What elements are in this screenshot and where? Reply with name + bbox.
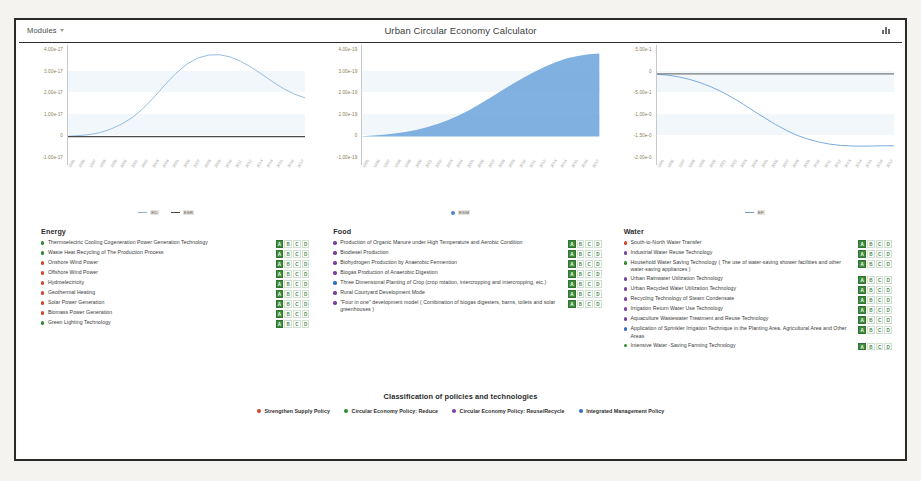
scenario-badge-c[interactable]: C <box>585 300 593 308</box>
scenario-badge-a[interactable]: A <box>276 290 284 298</box>
list-item[interactable]: Irrigation Return Water Use TechnologyAB… <box>624 305 892 314</box>
scenario-badge-c[interactable]: C <box>876 306 884 314</box>
scenario-badge-b[interactable]: B <box>577 240 585 248</box>
scenario-badge-b[interactable]: B <box>577 290 585 298</box>
scenario-badge-c[interactable]: C <box>876 276 884 284</box>
footer-legend-item[interactable]: Strengthen Supply Policy <box>257 408 330 414</box>
scenario-badge-a[interactable]: A <box>858 286 866 294</box>
scenario-badge-d[interactable]: D <box>884 250 892 258</box>
legend-item[interactable]: ED <box>138 210 158 215</box>
scenario-badge-d[interactable]: D <box>594 280 602 288</box>
scenario-badge-d[interactable]: D <box>884 296 892 304</box>
list-item[interactable]: Biodiesel ProductionABCD <box>333 249 601 258</box>
scenario-badge-b[interactable]: B <box>577 260 585 268</box>
scenario-badge-c[interactable]: C <box>293 310 301 318</box>
list-item[interactable]: Application of Sprinkler Irrigation Tech… <box>624 325 892 340</box>
scenario-badge-d[interactable]: D <box>884 286 892 294</box>
legend-item[interactable]: EF <box>745 210 765 215</box>
scenario-badge-b[interactable]: B <box>867 296 875 304</box>
scenario-badge-d[interactable]: D <box>302 290 310 298</box>
scenario-badge-c[interactable]: C <box>293 250 301 258</box>
scenario-badge-c[interactable]: C <box>293 320 301 328</box>
scenario-badge-a[interactable]: A <box>858 276 866 284</box>
scenario-badge-b[interactable]: B <box>284 280 292 288</box>
scenario-badge-d[interactable]: D <box>594 240 602 248</box>
legend-item[interactable]: ESR <box>171 210 194 215</box>
scenario-badge-c[interactable]: C <box>876 296 884 304</box>
scenario-badge-b[interactable]: B <box>867 286 875 294</box>
scenario-badge-b[interactable]: B <box>284 290 292 298</box>
scenario-badge-c[interactable]: C <box>876 286 884 294</box>
scenario-badge-d[interactable]: D <box>884 326 892 334</box>
scenario-badge-c[interactable]: C <box>876 316 884 324</box>
list-item[interactable]: HydroelectricityABCD <box>41 279 309 288</box>
scenario-badge-a[interactable]: A <box>568 270 576 278</box>
scenario-badge-a[interactable]: A <box>276 250 284 258</box>
scenario-badge-a[interactable]: A <box>858 343 866 351</box>
scenario-badge-c[interactable]: C <box>876 326 884 334</box>
list-item[interactable]: Waste Heat Recycling of The Production P… <box>41 249 309 258</box>
scenario-badge-b[interactable]: B <box>284 250 292 258</box>
scenario-badge-b[interactable]: B <box>577 250 585 258</box>
scenario-badge-b[interactable]: B <box>867 306 875 314</box>
scenario-badge-d[interactable]: D <box>302 250 310 258</box>
list-item[interactable]: Biohydrogen Production by Anaerobic Ferm… <box>333 259 601 268</box>
scenario-badge-a[interactable]: A <box>276 270 284 278</box>
scenario-badge-a[interactable]: A <box>858 240 866 248</box>
scenario-badge-d[interactable]: D <box>594 260 602 268</box>
scenario-badge-c[interactable]: C <box>876 240 884 248</box>
scenario-badge-a[interactable]: A <box>858 260 866 268</box>
list-item[interactable]: Aquaculture Wastewater Treatment and Reu… <box>624 315 892 324</box>
scenario-badge-b[interactable]: B <box>284 270 292 278</box>
list-item[interactable]: Onshore Wind PowerABCD <box>41 259 309 268</box>
scenario-badge-a[interactable]: A <box>276 320 284 328</box>
scenario-badge-b[interactable]: B <box>284 300 292 308</box>
scenario-badge-b[interactable]: B <box>867 343 875 351</box>
scenario-badge-a[interactable]: A <box>568 290 576 298</box>
scenario-badge-d[interactable]: D <box>884 240 892 248</box>
list-item[interactable]: Production of Organic Manure under High … <box>333 239 601 248</box>
scenario-badge-a[interactable]: A <box>276 260 284 268</box>
scenario-badge-c[interactable]: C <box>293 300 301 308</box>
scenario-badge-a[interactable]: A <box>858 250 866 258</box>
scenario-badge-b[interactable]: B <box>284 260 292 268</box>
scenario-badge-a[interactable]: A <box>276 300 284 308</box>
list-item[interactable]: "Four in one" development model ( Combin… <box>333 299 601 314</box>
scenario-badge-d[interactable]: D <box>302 240 310 248</box>
scenario-badge-d[interactable]: D <box>302 320 310 328</box>
scenario-badge-b[interactable]: B <box>577 300 585 308</box>
scenario-badge-a[interactable]: A <box>568 260 576 268</box>
scenario-badge-a[interactable]: A <box>568 300 576 308</box>
scenario-badge-c[interactable]: C <box>293 240 301 248</box>
scenario-badge-a[interactable]: A <box>276 310 284 318</box>
scenario-badge-b[interactable]: B <box>867 276 875 284</box>
scenario-badge-c[interactable]: C <box>876 260 884 268</box>
scenario-badge-d[interactable]: D <box>594 290 602 298</box>
scenario-badge-a[interactable]: A <box>858 326 866 334</box>
footer-legend-item[interactable]: Integrated Management Policy <box>579 408 665 414</box>
scenario-badge-d[interactable]: D <box>884 260 892 268</box>
scenario-badge-a[interactable]: A <box>568 240 576 248</box>
list-item[interactable]: Intensive Water -Saving Farming Technolo… <box>624 342 892 351</box>
scenario-badge-c[interactable]: C <box>293 260 301 268</box>
list-item[interactable]: Biomass Power GenerationABCD <box>41 309 309 318</box>
scenario-badge-a[interactable]: A <box>276 280 284 288</box>
list-item[interactable]: Recycling Technology of Steam Condensate… <box>624 295 892 304</box>
scenario-badge-c[interactable]: C <box>585 270 593 278</box>
scenario-badge-d[interactable]: D <box>594 270 602 278</box>
scenario-badge-b[interactable]: B <box>867 260 875 268</box>
list-item[interactable]: Solar Power GenerationABCD <box>41 299 309 308</box>
scenario-badge-b[interactable]: B <box>867 316 875 324</box>
scenario-badge-b[interactable]: B <box>284 310 292 318</box>
list-item[interactable]: Urban Rainwater Utilization TechnologyAB… <box>624 275 892 284</box>
list-item[interactable]: Biogas Production of Anaerobic Digestion… <box>333 269 601 278</box>
scenario-badge-d[interactable]: D <box>884 343 892 351</box>
scenario-badge-d[interactable]: D <box>302 280 310 288</box>
scenario-badge-c[interactable]: C <box>585 240 593 248</box>
scenario-badge-c[interactable]: C <box>293 280 301 288</box>
chart-icon[interactable] <box>880 26 892 35</box>
list-item[interactable]: Green Lighting TechnologyABCD <box>41 319 309 328</box>
scenario-badge-b[interactable]: B <box>577 280 585 288</box>
scenario-badge-a[interactable]: A <box>858 306 866 314</box>
scenario-badge-d[interactable]: D <box>302 300 310 308</box>
